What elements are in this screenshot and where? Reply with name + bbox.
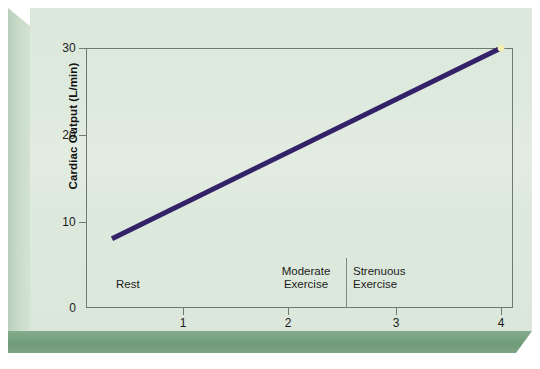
slab-corner-bottom-right xyxy=(516,331,532,353)
slab-bottom-bevel xyxy=(8,331,532,353)
slab-corner-top-left xyxy=(8,8,30,26)
chart-figure: 30 20 10 0 1 2 3 4 Rest M xyxy=(0,0,540,369)
y-axis-title: Cardiac Output (L/min) xyxy=(67,31,79,221)
chart-canvas: 30 20 10 0 1 2 3 4 Rest M xyxy=(30,8,532,331)
slab-left-bevel xyxy=(8,8,30,353)
data-series-layer xyxy=(30,8,532,331)
cardiac-output-line xyxy=(112,48,501,239)
series-endpoint-marker xyxy=(498,45,505,52)
figure-slab-3d: 30 20 10 0 1 2 3 4 Rest M xyxy=(8,8,532,353)
